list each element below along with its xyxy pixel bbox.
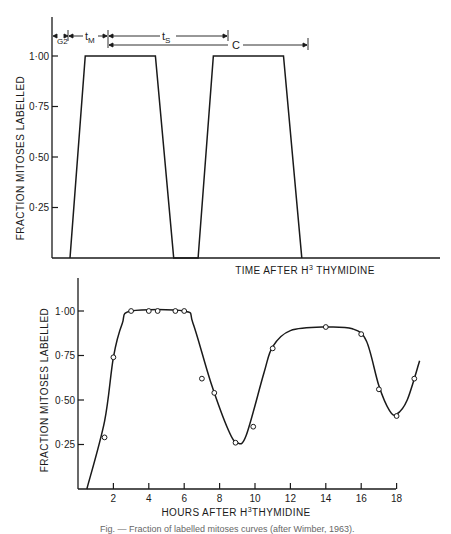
lower-x-ticks: 24681012141618 [111,483,403,504]
upper-y-tick-label: 0·25 [29,202,49,213]
data-point [212,390,217,395]
upper-x-axis-label: TIME AFTER H3 THYMIDINE [235,264,375,276]
data-point [155,309,160,314]
lower-x-tick-label: 2 [111,493,117,504]
data-point [129,309,134,314]
lower-chart: 1·000·750·500·25 24681012141618 FRACTION… [39,278,420,518]
lower-x-axis-label: HOURS AFTER H3THYMIDINE [161,506,310,518]
tm-arrowhead-right-icon [103,34,107,38]
g2-label: G2 [57,37,68,46]
lower-x-tick-label: 14 [320,493,332,504]
tm-label: tM [85,30,95,45]
lower-y-tick-label: 1·00 [55,306,75,317]
ideal-flm-curve [70,56,302,258]
upper-chart: 1·000·750·500·25 FRACTION MITOSES LABELL… [15,17,440,276]
data-point [102,435,107,440]
lower-x-tick-label: 8 [217,493,223,504]
data-point [173,309,178,314]
data-point [146,309,151,314]
lower-x-tick-label: 10 [249,493,261,504]
lower-x-tick-label: 4 [146,493,152,504]
data-point [377,387,382,392]
data-point [251,424,256,429]
data-point [323,325,328,330]
upper-y-axis-label: FRACTION MITOSES LABELLED [15,76,26,241]
lower-x-tick-label: 16 [356,493,368,504]
c-arrowhead-left-icon [109,43,113,47]
lower-y-tick-label: 0·75 [55,350,75,361]
lower-y-axis-label: FRACTION MITOSES LABELLED [39,308,50,473]
data-point [200,376,205,381]
tm-arrowhead-left-icon [69,34,73,38]
lower-y-tick-label: 0·25 [55,439,75,450]
upper-y-ticks: 1·000·750·500·25 [29,51,58,214]
data-point [182,309,187,314]
c-arrowhead-right-icon [303,43,307,47]
lower-y-tick-label: 0·50 [55,395,75,406]
observed-data-points [102,309,417,446]
data-point [111,355,116,360]
data-point [394,414,399,419]
figure-caption: Fig. — Fraction of labelled mitoses curv… [100,524,355,534]
lower-x-tick-label: 18 [391,493,403,504]
upper-y-tick-label: 0·75 [29,101,49,112]
lower-x-tick-label: 12 [285,493,297,504]
upper-y-tick-label: 0·50 [29,152,49,163]
data-point [233,440,238,445]
fitted-flm-curve [87,309,420,489]
ts-arrowhead-right-icon [223,34,227,38]
ts-label: tS [162,30,170,45]
data-point [359,332,364,337]
data-point [412,376,417,381]
c-label: C [232,39,240,51]
lower-y-ticks: 1·000·750·500·25 [55,306,84,451]
lower-x-tick-label: 6 [181,493,187,504]
data-point [270,346,275,351]
upper-y-tick-label: 1·00 [29,51,49,62]
ts-arrowhead-left-icon [109,34,113,38]
